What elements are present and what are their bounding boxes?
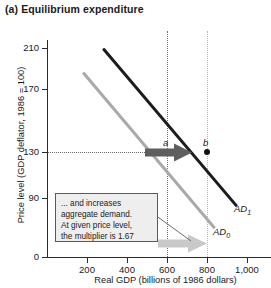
multiplier-callout-text: ... and increases aggregate demand. At g… — [61, 198, 156, 242]
equilibrium-expenditure-figure: (a) Equilibrium expenditure 210 170 130 … — [0, 0, 271, 288]
y-tick-mark-90 — [42, 198, 47, 199]
ad0-label-subscript: 0 — [226, 232, 230, 239]
ad1-curve-label: AD1 — [234, 203, 251, 216]
x-axis-line — [47, 257, 271, 258]
shift-arrow-dark-icon — [145, 143, 193, 162]
point-b-label: b — [203, 137, 208, 148]
ad1-label-subscript: 1 — [247, 209, 251, 216]
x-tick-label-800: 800 — [187, 264, 227, 275]
x-tick-mark-800 — [207, 258, 208, 263]
callout-line-1: ... and increases — [61, 198, 156, 209]
x-tick-label-600: 600 — [147, 264, 187, 275]
y-axis-title: Price level (GDP deflator, 1986 = 100) — [16, 50, 26, 240]
ad1-curve — [102, 47, 238, 207]
x-tick-label-1000: 1,000 — [227, 264, 267, 275]
y-tick-mark-210 — [42, 48, 47, 49]
y-axis-line — [47, 40, 48, 258]
x-tick-mark-200 — [87, 258, 88, 263]
y-tick-mark-130 — [42, 152, 47, 153]
callout-line-2: aggregate demand. — [61, 209, 156, 220]
y-tick-label-0: 0 — [13, 251, 39, 262]
callout-line-4: the multiplier is 1.67 — [61, 231, 156, 242]
x-tick-mark-1000 — [247, 258, 248, 263]
x-axis-title: Real GDP (billions of 1986 dollars) — [60, 275, 271, 285]
multiplier-callout-box: ... and increases aggregate demand. At g… — [55, 193, 158, 242]
point-b-marker — [204, 149, 211, 156]
ad0-label-text: AD — [213, 226, 226, 237]
callout-leader-line — [155, 215, 213, 249]
y-tick-mark-170 — [42, 89, 47, 90]
callout-line-3: At given price level, — [61, 220, 156, 231]
ad1-label-text: AD — [234, 203, 247, 214]
x-tick-mark-400 — [127, 258, 128, 263]
x-tick-label-200: 200 — [67, 264, 107, 275]
panel-title: (a) Equilibrium expenditure — [5, 3, 144, 15]
x-tick-mark-600 — [167, 258, 168, 263]
y-tick-mark-0 — [42, 257, 47, 258]
x-tick-label-400: 400 — [107, 264, 147, 275]
ad0-curve-label: AD0 — [213, 226, 230, 239]
